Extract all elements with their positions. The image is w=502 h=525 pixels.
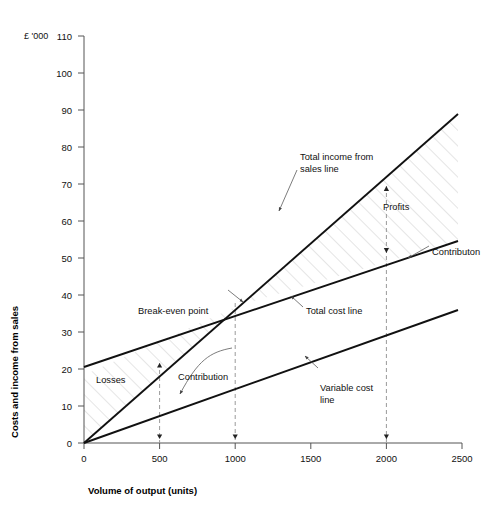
y-tick-label: 10	[61, 401, 72, 412]
y-tick-label: 70	[61, 179, 72, 190]
annotation-variable-cost-line-2: line	[320, 395, 334, 405]
y-tick-label: 100	[56, 68, 72, 79]
x-axis-ticks	[84, 443, 462, 449]
y-tick-label: 80	[61, 142, 72, 153]
leader-contribution	[180, 348, 232, 394]
x-tick-label: 2500	[451, 453, 472, 464]
break-even-chart: 110 100 90 80 70 60 50 40 30 20 10 0 0 5…	[0, 0, 502, 525]
y-axis-title: Costs and income from sales	[9, 306, 20, 438]
y-tick-label: 20	[61, 364, 72, 375]
annotation-break-even-point: Break-even point	[138, 306, 209, 316]
leader-total-income	[279, 170, 297, 211]
marker-breakeven-bottom	[233, 435, 238, 440]
annotation-contribution: Contribution	[178, 372, 228, 382]
annotation-total-cost-line: Total cost line	[306, 306, 362, 316]
annotation-total-income-line-2: sales line	[300, 164, 339, 174]
y-axis-ticks	[78, 36, 84, 443]
marker-contribution-bottom	[157, 435, 162, 440]
annotation-total-income-line-1: Total income from	[300, 152, 374, 162]
x-axis-title: Volume of output (units)	[88, 485, 197, 496]
leader-break-even	[228, 290, 243, 302]
y-axis-tick-labels: 110 100 90 80 70 60 50 40 30 20 10 0	[56, 31, 72, 449]
chart-svg: 110 100 90 80 70 60 50 40 30 20 10 0 0 5…	[0, 0, 502, 525]
x-tick-label: 1500	[300, 453, 321, 464]
x-tick-label: 0	[81, 453, 86, 464]
annotation-contributon: Contributon	[432, 247, 480, 257]
y-tick-label: 50	[61, 253, 72, 264]
y-tick-label: 90	[61, 105, 72, 116]
annotation-losses: Losses	[96, 375, 126, 385]
x-axis-tick-labels: 0 500 1000 1500 2000 2500	[81, 453, 472, 464]
leader-variable-cost	[305, 356, 318, 368]
y-tick-label: 60	[61, 216, 72, 227]
total-income-line	[84, 114, 458, 443]
x-tick-label: 2000	[376, 453, 397, 464]
x-tick-label: 500	[152, 453, 168, 464]
annotation-profits: Profits	[383, 202, 410, 212]
marker-profits-bottom	[384, 435, 389, 440]
leader-total-cost	[291, 296, 303, 307]
total-cost-line	[84, 241, 458, 367]
y-tick-label: 110	[57, 31, 72, 42]
y-tick-label: 40	[61, 290, 72, 301]
y-tick-label: 0	[67, 438, 72, 449]
y-tick-label: 30	[61, 327, 72, 338]
y-axis-unit-label: £ '000	[24, 31, 48, 41]
annotation-variable-cost-line-1: Variable cost	[320, 383, 373, 393]
x-tick-label: 1000	[225, 453, 246, 464]
